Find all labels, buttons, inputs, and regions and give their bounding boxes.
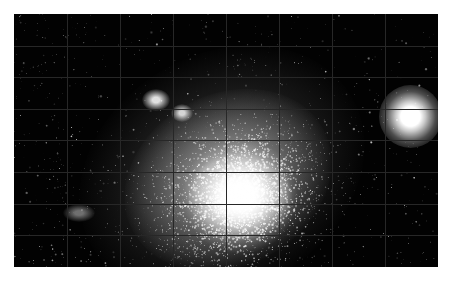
screenshot-root [0, 0, 453, 282]
astronomy-image-plate [14, 14, 438, 267]
starfield-canvas [14, 14, 438, 267]
